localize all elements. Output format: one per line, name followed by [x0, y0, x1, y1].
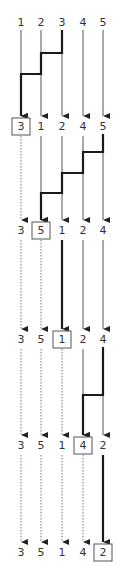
- cell-value: 2: [80, 333, 87, 346]
- cell-value: 1: [38, 120, 45, 133]
- cell-value: 5: [38, 224, 45, 237]
- cell-value: 1: [59, 546, 66, 559]
- cell-value: 5: [38, 546, 45, 559]
- cell-value: 4: [100, 224, 107, 237]
- cell-value: 2: [100, 546, 107, 559]
- cell-value: 5: [38, 333, 45, 346]
- cell-value: 3: [18, 120, 25, 133]
- cell-value: 5: [100, 120, 107, 133]
- cell-value: 4: [80, 16, 87, 29]
- cell-value: 1: [59, 439, 66, 452]
- cell-value: 4: [80, 120, 87, 133]
- connector-lines: [21, 30, 103, 542]
- cell-value: 1: [18, 16, 25, 29]
- cell-value: 5: [38, 439, 45, 452]
- cell-value: 4: [80, 439, 87, 452]
- cell-value: 1: [59, 224, 66, 237]
- cell-value: 2: [38, 16, 45, 29]
- cell-value: 3: [59, 16, 66, 29]
- swap-path: [41, 134, 103, 220]
- swap-path: [83, 347, 103, 435]
- cell-value: 3: [18, 224, 25, 237]
- cell-value: 3: [18, 546, 25, 559]
- cell-value: 1: [59, 333, 66, 346]
- cell-value: 5: [100, 16, 107, 29]
- sort-diagram: 123453124535124351243514235142: [0, 0, 120, 575]
- cell-value: 2: [100, 439, 107, 452]
- cell-value: 4: [100, 333, 107, 346]
- cell-value: 3: [18, 333, 25, 346]
- cell-value: 2: [80, 224, 87, 237]
- cell-value: 2: [59, 120, 66, 133]
- cell-value: 3: [18, 439, 25, 452]
- cell-value: 4: [80, 546, 87, 559]
